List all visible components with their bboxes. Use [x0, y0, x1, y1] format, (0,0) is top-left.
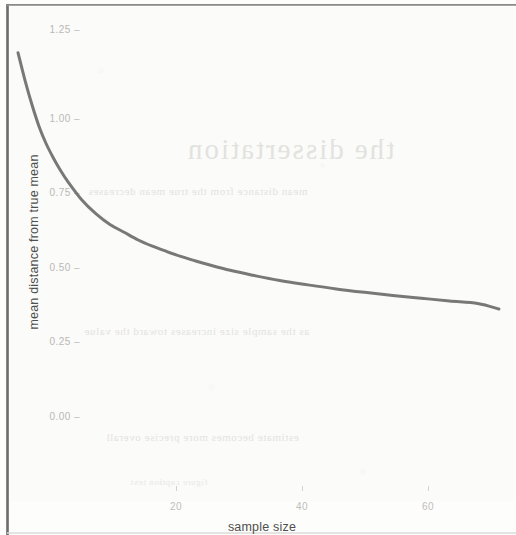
x-axis-title: sample size — [10, 520, 514, 534]
x-tickmark-60 — [428, 486, 429, 491]
line-chart-curve — [10, 7, 514, 501]
chart-page: the dissertation mean distance from the … — [0, 0, 516, 535]
x-tick-20: 20 — [161, 501, 191, 512]
x-tick-60: 60 — [413, 501, 443, 512]
x-tickmark-40 — [302, 486, 303, 491]
y-axis-title: mean distance from true mean — [27, 132, 41, 352]
x-tickmark-20 — [176, 486, 177, 491]
scan-edge-top — [7, 4, 516, 6]
scan-edge-left — [6, 4, 9, 535]
plot-panel: the dissertation mean distance from the … — [10, 7, 514, 501]
x-tick-40: 40 — [287, 501, 317, 512]
